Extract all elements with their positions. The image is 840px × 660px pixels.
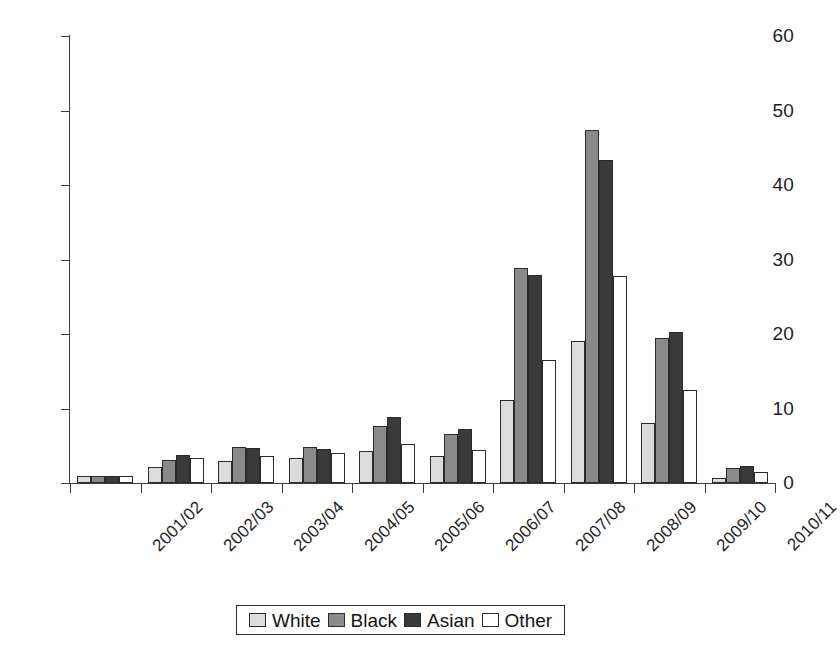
y-axis-tick [61, 334, 70, 335]
bar-black-2010-11 [726, 468, 740, 483]
bar-asian-2001-02 [105, 476, 119, 483]
x-axis-tick [141, 484, 142, 493]
chart-legend: WhiteBlackAsianOther [236, 605, 565, 635]
bar-asian-2010-11 [740, 466, 754, 483]
bar-asian-2006-07 [458, 429, 472, 483]
bar-other-2006-07 [472, 450, 486, 483]
bar-black-2005-06 [373, 426, 387, 483]
bar-black-2003-04 [232, 447, 246, 484]
bar-asian-2005-06 [387, 417, 401, 483]
x-axis-tick-label: 2009/10 [714, 498, 770, 554]
legend-label: White [272, 611, 321, 630]
bar-black-2006-07 [444, 434, 458, 483]
x-axis-tick-label: 2004/05 [361, 498, 417, 554]
bar-asian-2002-03 [176, 455, 190, 483]
bar-asian-2007-08 [528, 275, 542, 483]
x-axis-tick-label: 2010/11 [784, 498, 840, 554]
plot-area [70, 36, 775, 483]
x-axis-tick [423, 484, 424, 493]
bar-white-2003-04 [218, 461, 232, 483]
bar-other-2009-10 [683, 390, 697, 483]
bar-white-2009-10 [641, 423, 655, 483]
bar-black-2007-08 [514, 268, 528, 483]
bar-white-2002-03 [148, 467, 162, 483]
legend-swatch-icon [328, 613, 345, 627]
x-axis-tick-label: 2005/06 [432, 498, 488, 554]
bar-white-2010-11 [712, 478, 726, 483]
legend-swatch-icon [249, 613, 266, 627]
bar-asian-2004-05 [317, 449, 331, 483]
y-axis-tick [61, 111, 70, 112]
legend-item-asian: Asian [404, 611, 475, 630]
bar-other-2010-11 [754, 472, 768, 483]
x-axis-tick-label: 2003/04 [291, 498, 347, 554]
x-axis-tick [634, 484, 635, 493]
x-axis-tick [564, 484, 565, 493]
x-axis-tick [211, 484, 212, 493]
y-axis-tick [61, 483, 70, 484]
y-axis-tick [61, 36, 70, 37]
x-axis-tick [352, 484, 353, 493]
x-axis-tick [705, 484, 706, 493]
legend-label: Asian [427, 611, 475, 630]
bar-black-2004-05 [303, 447, 317, 483]
x-axis-tick-label: 2001/02 [150, 498, 206, 554]
legend-swatch-icon [482, 613, 499, 627]
bar-black-2001-02 [91, 476, 105, 483]
bar-black-2008-09 [585, 130, 599, 483]
legend-swatch-icon [404, 613, 421, 627]
bar-white-2004-05 [289, 458, 303, 483]
legend-item-black: Black [328, 611, 397, 630]
legend-item-other: Other [482, 611, 553, 630]
bar-black-2002-03 [162, 460, 176, 483]
x-axis-tick-label: 2006/07 [502, 498, 558, 554]
bar-asian-2008-09 [599, 160, 613, 483]
y-axis-tick [61, 185, 70, 186]
bar-other-2003-04 [260, 456, 274, 483]
x-axis-tick [493, 484, 494, 493]
bar-other-2005-06 [401, 444, 415, 483]
bar-white-2005-06 [359, 451, 373, 483]
bar-black-2009-10 [655, 338, 669, 483]
bar-white-2001-02 [77, 476, 91, 483]
bar-white-2007-08 [500, 400, 514, 483]
bar-white-2006-07 [430, 456, 444, 483]
legend-label: Black [351, 611, 397, 630]
bar-other-2001-02 [119, 476, 133, 483]
bar-white-2008-09 [571, 341, 585, 483]
bar-other-2007-08 [542, 360, 556, 483]
x-axis-tick-label: 2007/08 [573, 498, 629, 554]
bar-other-2008-09 [613, 276, 627, 483]
x-axis-tick-label: 2008/09 [643, 498, 699, 554]
x-axis-tick-label: 2002/03 [220, 498, 276, 554]
y-axis-tick [61, 409, 70, 410]
x-axis-tick [775, 484, 776, 493]
legend-label: Other [505, 611, 553, 630]
bar-asian-2003-04 [246, 448, 260, 483]
x-axis-tick [70, 484, 71, 493]
x-axis-tick [282, 484, 283, 493]
y-axis-tick [61, 260, 70, 261]
bar-other-2002-03 [190, 458, 204, 483]
bar-other-2004-05 [331, 453, 345, 483]
legend-item-white: White [249, 611, 321, 630]
bar-asian-2009-10 [669, 332, 683, 483]
